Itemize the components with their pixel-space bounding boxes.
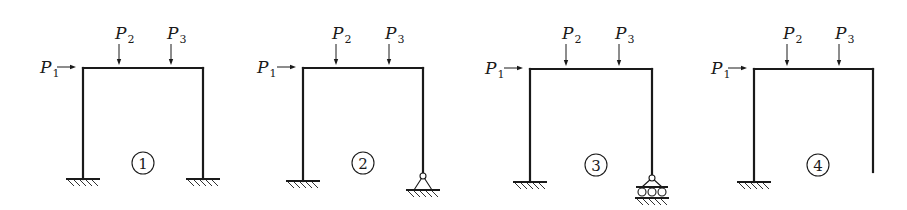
hatch-line	[288, 182, 294, 188]
hatch-line	[745, 183, 751, 189]
arrow-down-icon	[169, 44, 173, 65]
hatch-line	[533, 183, 539, 189]
hatch-line	[206, 180, 212, 186]
frame-number-badge: 3	[585, 154, 607, 176]
load-label-p2: P2	[561, 23, 581, 46]
frame-number: 4	[813, 157, 823, 175]
frame-number: 2	[358, 155, 368, 173]
hatch-line	[637, 199, 643, 205]
hatch-line	[92, 180, 98, 186]
hatch-line	[739, 183, 745, 189]
hatch-line	[420, 191, 426, 197]
arrow-right-icon	[728, 66, 747, 70]
arrow-down-icon	[334, 44, 338, 65]
hatch-line	[408, 191, 414, 197]
arrow-down-icon	[837, 44, 841, 66]
hatch-line	[194, 180, 200, 186]
arrow-down-icon	[617, 44, 621, 66]
arrow-down-icon	[387, 44, 391, 65]
frame-3: P1P2P33	[484, 23, 669, 205]
hinge-circle	[420, 173, 426, 179]
roller-wheel	[648, 188, 656, 196]
hatch-line	[432, 191, 438, 197]
hatch-line	[426, 191, 432, 197]
roller-support-icon	[635, 175, 669, 205]
hatch-line	[188, 180, 194, 186]
hatch-line	[80, 180, 86, 186]
hatch-line	[527, 183, 533, 189]
load-label-p2: P2	[331, 23, 351, 46]
load-label-p3: P3	[166, 23, 186, 46]
pinned-support-icon	[406, 173, 440, 197]
hatch-line	[212, 180, 218, 186]
frame-4: P1P2P34	[710, 23, 873, 189]
arrow-down-icon	[117, 44, 121, 65]
hatch-line	[643, 199, 649, 205]
hatch-line	[306, 182, 312, 188]
frame-number-badge: 4	[807, 154, 829, 176]
hatch-line	[521, 183, 527, 189]
hatch-line	[763, 183, 769, 189]
hatch-line	[86, 180, 92, 186]
arrow-right-icon	[504, 66, 523, 70]
load-label-p1: P1	[484, 58, 504, 81]
hatch-line	[539, 183, 545, 189]
frame-number: 1	[138, 155, 148, 173]
hatch-line	[515, 183, 521, 189]
load-label-p3: P3	[614, 23, 634, 46]
frame-1: P1P2P31	[39, 23, 220, 186]
hatch-line	[661, 199, 667, 205]
hatch-line	[414, 191, 420, 197]
roller-wheel	[638, 188, 646, 196]
roller-wheel	[658, 188, 666, 196]
hinge-circle	[649, 175, 655, 181]
hatch-line	[200, 180, 206, 186]
hatch-line	[68, 180, 74, 186]
arrow-down-icon	[785, 44, 789, 66]
hatch-line	[751, 183, 757, 189]
hatch-line	[74, 180, 80, 186]
arrow-right-icon	[277, 65, 296, 69]
arrow-right-icon	[57, 65, 76, 69]
frame-number: 3	[591, 157, 601, 175]
hatch-line	[312, 182, 318, 188]
frame-number-badge: 1	[132, 152, 154, 174]
frame-2: P1P2P32	[256, 23, 440, 197]
hatch-line	[655, 199, 661, 205]
hatch-line	[649, 199, 655, 205]
load-label-p2: P2	[782, 23, 802, 46]
load-label-p1: P1	[39, 57, 59, 80]
load-label-p3: P3	[834, 23, 854, 46]
load-label-p1: P1	[256, 57, 276, 80]
hatch-line	[294, 182, 300, 188]
frame-diagram: P1P2P31P1P2P32P1P2P33P1P2P34	[0, 0, 907, 210]
hatch-line	[300, 182, 306, 188]
frame-number-badge: 2	[352, 152, 374, 174]
arrow-down-icon	[564, 44, 568, 66]
load-label-p2: P2	[114, 23, 134, 46]
load-label-p1: P1	[710, 58, 730, 81]
load-label-p3: P3	[384, 23, 404, 46]
hatch-line	[757, 183, 763, 189]
